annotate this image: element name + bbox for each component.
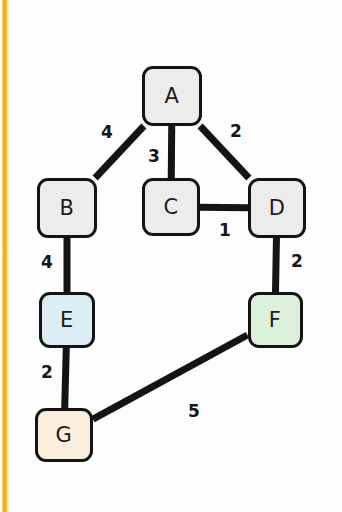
edge-weight-g-f: 5	[184, 401, 204, 421]
graph-node-label: F	[269, 308, 282, 332]
graph-node-label: B	[60, 196, 75, 220]
graph-node-label: D	[269, 196, 286, 220]
edge-weight-d-f: 2	[287, 251, 307, 271]
edge-weight-b-e: 4	[37, 252, 57, 272]
graph-edge-d-f	[276, 238, 277, 292]
graph-node-label: G	[56, 423, 73, 447]
graph-node-a[interactable]: A	[142, 66, 202, 126]
graph-node-c[interactable]: C	[142, 178, 200, 236]
edge-weight-a-c: 3	[144, 146, 164, 166]
graph-edge-e-g	[65, 348, 67, 408]
graph-node-e[interactable]: E	[39, 292, 95, 348]
edge-weight-c-d: 1	[215, 220, 235, 240]
graph-edge-g-f	[93, 335, 248, 419]
graph-node-d[interactable]: D	[248, 178, 306, 238]
edge-weight-a-b: 4	[97, 122, 117, 142]
diagram-page: ABCDEFG 43214225	[0, 0, 342, 512]
graph-node-label: E	[60, 308, 74, 332]
edge-weight-e-g: 2	[37, 362, 57, 382]
graph-node-label: C	[163, 195, 178, 219]
graph-node-f[interactable]: F	[248, 292, 303, 348]
graph-node-b[interactable]: B	[37, 178, 97, 238]
graph-node-label: A	[165, 84, 180, 108]
edge-weight-a-d: 2	[226, 121, 246, 141]
graph-node-g[interactable]: G	[35, 408, 93, 462]
